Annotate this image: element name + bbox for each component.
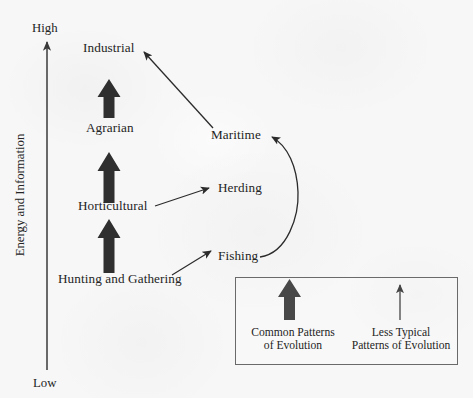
axis-title: Energy and Information [13,134,28,257]
edge-horticultural-to-herding [155,188,209,206]
node-industrial: Industrial [83,41,135,54]
legend-caption-less-typical-patterns: Less Typical Patterns of Evolution [347,326,455,353]
figure-canvas: High Low Energy and Information Industri… [0,0,473,398]
axis-low-label: Low [33,377,56,390]
node-maritime: Maritime [211,128,261,141]
node-agrarian: Agrarian [86,121,134,134]
node-hunting-and-gathering: Hunting and Gathering [58,272,182,285]
edge-agrarian-to-industrial [98,79,121,118]
node-herding: Herding [218,181,262,194]
edge-fishing-to-maritime [260,137,298,257]
legend-caption-common-patterns: Common Patterns of Evolution [243,326,343,353]
edge-hunting-to-horticultural [98,219,121,273]
axis-high-label: High [32,22,58,35]
node-fishing: Fishing [218,249,258,262]
edge-horticultural-to-agrarian [98,152,121,203]
node-horticultural: Horticultural [78,199,147,212]
edge-maritime-to-industrial [144,52,213,128]
